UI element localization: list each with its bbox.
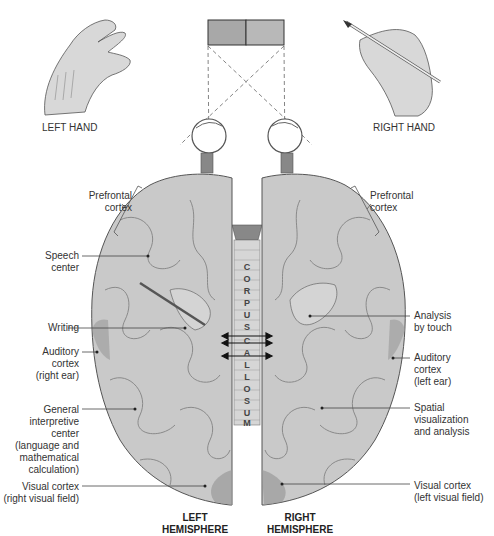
cc-letter: R — [241, 286, 253, 297]
label-auditory-cortex-left-ear: Auditory cortex (left ear) — [414, 352, 451, 388]
label-auditory-cortex-right-ear: Auditory cortex (right ear) — [36, 346, 79, 382]
label-visual-cortex-left-field: Visual cortex (left visual field) — [414, 480, 483, 504]
label-prefrontal-left: Prefrontal cortex — [89, 190, 132, 214]
right-hemisphere-shape — [262, 174, 405, 505]
cc-letter: C — [241, 262, 253, 273]
cc-letter: S — [241, 396, 253, 407]
label-spatial-visualization: Spatial visualization and analysis — [414, 402, 470, 438]
cc-letter: A — [241, 348, 253, 359]
label-visual-cortex-right-field: Visual cortex (right visual field) — [3, 481, 79, 505]
label-analysis-by-touch: Analysis by touch — [414, 310, 452, 334]
right-hand-label: RIGHT HAND — [373, 122, 435, 133]
left-hand-drawing — [45, 20, 131, 115]
visual-stimulus-box — [208, 20, 284, 45]
label-writing: Writing — [48, 322, 79, 334]
cc-letter: L — [241, 360, 253, 371]
cc-letter: C — [241, 336, 253, 347]
cc-letter: O — [241, 274, 253, 285]
label-prefrontal-right: Prefrontal cortex — [370, 190, 413, 214]
left-hemisphere-shape — [92, 174, 232, 505]
cc-letter: O — [241, 384, 253, 395]
left-hand-label: LEFT HAND — [42, 122, 97, 133]
right-hemisphere-label: RIGHT HEMISPHERE — [250, 512, 350, 536]
cc-letter: P — [241, 298, 253, 309]
label-speech-center: Speech center — [45, 250, 79, 274]
left-eye — [192, 119, 226, 173]
left-hemisphere-label: LEFT HEMISPHERE — [145, 512, 245, 536]
right-hand-drawing — [343, 20, 440, 116]
label-general-interpretive-center: General interpretive center (language an… — [15, 404, 79, 476]
cc-letter: U — [241, 310, 253, 321]
cc-letter: L — [241, 372, 253, 383]
cc-letter: M — [241, 418, 253, 429]
right-eye — [268, 119, 302, 173]
optic-chiasm — [232, 225, 262, 240]
cc-letter: S — [241, 322, 253, 333]
